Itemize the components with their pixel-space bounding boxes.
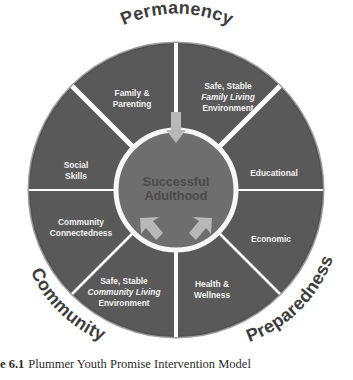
hub-line-1: Successful	[143, 175, 210, 189]
hub-line-2: Adulthood	[145, 189, 208, 203]
segment-social-skills: Social Skills	[64, 160, 89, 181]
segment-label-line: Environment	[202, 103, 253, 113]
segment-safe-stable-family-living-environment: Safe, Stable Family Living Environment	[201, 81, 255, 113]
segment-label-line: Social	[64, 160, 89, 170]
segment-label-line: Family Living	[201, 92, 255, 102]
domain-label-permanency-text: Permanency	[118, 0, 237, 29]
intervention-model-figure: Successful Adulthood Family & Parenting …	[0, 0, 353, 380]
segment-label-line: Community	[58, 217, 104, 227]
segment-label-line: Environment	[98, 298, 149, 308]
segment-label-line: Educational	[250, 168, 297, 178]
segment-label-line: Wellness	[194, 290, 230, 300]
wheel-diagram: Successful Adulthood Family & Parenting …	[0, 0, 353, 380]
hub-label: Successful Adulthood	[143, 175, 210, 203]
segment-family-parenting: Family & Parenting	[113, 88, 152, 109]
figure-caption: e 6.1Plummer Youth Promise Intervention …	[0, 357, 353, 372]
segment-educational: Educational	[250, 168, 297, 178]
segment-label-line: Parenting	[113, 99, 152, 109]
segment-label-line: Connectedness	[50, 228, 113, 238]
segment-label-line: Community Living	[87, 287, 160, 297]
segment-label-line: Skills	[65, 171, 87, 181]
figure-caption-text: Plummer Youth Promise Intervention Model	[28, 357, 251, 371]
segment-label-line: Economic	[251, 234, 291, 244]
segment-economic: Economic	[251, 234, 291, 244]
segment-community-connectedness: Community Connectedness	[50, 217, 113, 238]
segment-label-line: Safe, Stable	[204, 81, 252, 91]
segment-label-line: Safe, Stable	[100, 276, 148, 286]
segment-health-wellness: Health & Wellness	[194, 279, 230, 300]
figure-caption-number: e 6.1	[0, 357, 24, 371]
segment-label-line: Health &	[195, 279, 229, 289]
segment-label-line: Family &	[115, 88, 150, 98]
domain-label-permanency: Permanency	[118, 0, 237, 29]
